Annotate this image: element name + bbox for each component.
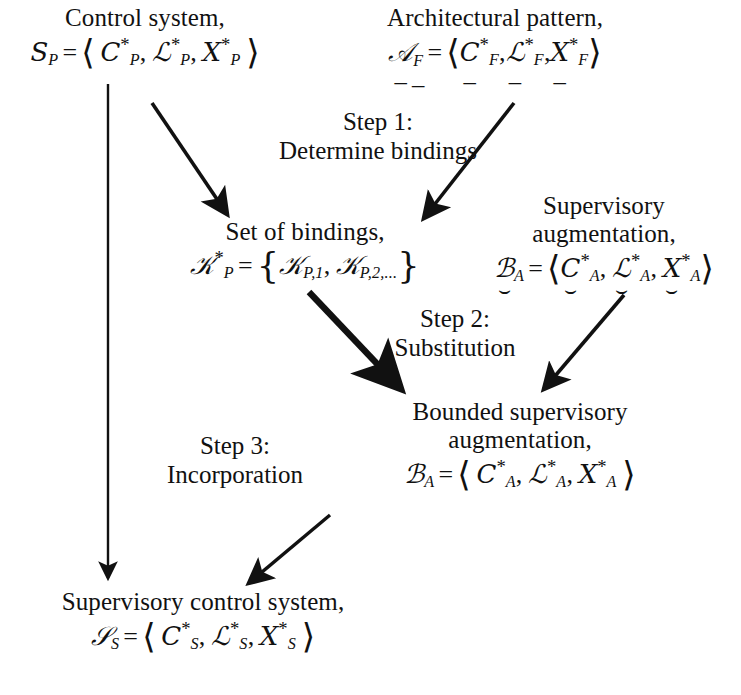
step-3-label: Step 3: Incorporation	[130, 432, 340, 489]
component-X-subscript: A	[691, 267, 701, 284]
component-L: ℒ	[528, 459, 547, 489]
step-1-label: Step 1: Determine bindings	[228, 108, 528, 165]
symbol-S: 𝒮	[91, 621, 111, 651]
comma-1: ,	[324, 251, 331, 280]
equals-sign: =	[119, 622, 142, 651]
component-L-subscript: A	[556, 473, 566, 490]
architectural-pattern-label: Architectural pattern,	[330, 4, 660, 32]
diagram-canvas: Control system, SP=⟨C*P,ℒ*P,𝑋*P⟩ Archite…	[0, 0, 741, 695]
symbol-S-subscript: P	[48, 51, 58, 68]
component-X-star: *	[221, 34, 230, 55]
component-L-star: *	[171, 34, 180, 55]
symbol-S: S	[30, 37, 48, 67]
component-X-subscript: S	[288, 635, 296, 652]
component-L: ℒ	[211, 621, 230, 651]
angle-close: ⟩	[246, 32, 259, 72]
component-C: C	[161, 621, 181, 651]
component-C-star: *	[181, 618, 190, 639]
symbol-B: ℬ	[494, 253, 514, 283]
symbol-S-subscript: S	[111, 635, 119, 652]
component-L: ℒ	[152, 37, 171, 67]
component-L-subscript: F	[534, 51, 544, 68]
angle-close: ⟩	[588, 32, 601, 72]
angle-open: ⟨	[142, 616, 155, 656]
symbol-B-subscript: A	[424, 473, 434, 490]
component-C-star: *	[120, 34, 129, 55]
component-C-subscript: S	[191, 635, 199, 652]
angle-open: ⟨	[446, 32, 459, 72]
component-C: C	[100, 37, 120, 67]
component-C: C	[560, 253, 580, 283]
control-system-label: Control system,	[10, 4, 280, 32]
brace-open: {	[257, 245, 279, 286]
component-X: 𝑋	[663, 253, 682, 283]
component-C-subscript: P	[130, 51, 140, 68]
bounded-supervisory-augmentation-label-line1: Bounded supervisory	[330, 398, 710, 426]
step-2-line2: Substitution	[340, 334, 570, 363]
angle-open: ⟨	[547, 248, 560, 288]
comma-2: ,	[650, 254, 657, 283]
angle-close: ⟩	[701, 248, 714, 288]
element-2-subscript: P,2,...	[360, 264, 397, 281]
component-C-star: *	[480, 34, 489, 55]
symbol-B-subscript: A	[514, 267, 524, 284]
element-1-base: 𝒦	[279, 250, 303, 280]
component-X: 𝑋	[579, 459, 598, 489]
step-2-line1: Step 2:	[340, 305, 570, 334]
component-C: C	[460, 37, 480, 67]
angle-open: ⟨	[457, 454, 470, 494]
supervisory-augmentation-label-line2: augmentation,	[470, 220, 738, 248]
node-architectural-pattern: Architectural pattern, 𝒜_F_=⟨C_*F,ℒ_*F,𝑋…	[330, 4, 660, 70]
component-L-star: *	[631, 250, 640, 271]
component-X-star: *	[569, 34, 578, 55]
bounded-supervisory-augmentation-label-line2: augmentation,	[330, 426, 710, 454]
node-supervisory-control-system: Supervisory control system, 𝒮S=⟨C*S,ℒ*S,…	[8, 588, 398, 654]
component-L-subscript: S	[239, 635, 247, 652]
angle-close: ⟩	[622, 454, 635, 494]
symbol-A: 𝒜	[388, 37, 413, 67]
node-set-of-bindings: Set of bindings, 𝒦*P={𝒦P,1,𝒦P,2,...}	[150, 218, 460, 285]
comma-2: ,	[248, 622, 255, 651]
symbol-K-star: *	[214, 247, 223, 268]
symbol-K-subscript: P	[224, 264, 234, 281]
bounded-supervisory-augmentation-equation: ℬA=⟨C*A,ℒ*A,𝑋*A⟩	[330, 456, 710, 492]
component-X: 𝑋	[203, 37, 222, 67]
comma-2: ,	[566, 460, 573, 489]
comma-1: ,	[199, 622, 206, 651]
node-bounded-supervisory-augmentation: Bounded supervisory augmentation, ℬA=⟨C*…	[330, 398, 710, 492]
component-L-subscript: A	[640, 267, 650, 284]
step-3-line2: Incorporation	[130, 461, 340, 490]
step-2-label: Step 2: Substitution	[340, 305, 570, 362]
component-C-star: *	[496, 456, 505, 477]
architectural-pattern-equation: 𝒜_F_=⟨C_*F,ℒ_*F,𝑋_*F⟩	[330, 34, 660, 70]
equals-sign: =	[434, 460, 457, 489]
supervisory-control-system-label: Supervisory control system,	[8, 588, 398, 616]
supervisory-augmentation-equation: ℬ⌣A=⟨C⌣*A,ℒ⌣*A,𝑋⌣*A⟩	[470, 250, 738, 286]
component-X-star: *	[681, 250, 690, 271]
component-L: ℒ	[506, 37, 525, 67]
component-X: 𝑋	[550, 37, 569, 67]
angle-open: ⟨	[81, 32, 94, 72]
equals-sign: =	[524, 254, 547, 283]
equals-sign: =	[423, 38, 446, 67]
component-C-star: *	[580, 250, 589, 271]
supervisory-control-system-equation: 𝒮S=⟨C*S,ℒ*S,𝑋*S⟩	[8, 618, 398, 654]
step-1-line1: Step 1:	[228, 108, 528, 137]
node-control-system: Control system, SP=⟨C*P,ℒ*P,𝑋*P⟩	[10, 4, 280, 70]
angle-close: ⟩	[302, 616, 315, 656]
component-L-star: *	[230, 618, 239, 639]
supervisory-augmentation-label-line1: Supervisory	[470, 192, 738, 220]
comma-1: ,	[600, 254, 607, 283]
component-X-subscript: A	[607, 473, 617, 490]
component-X-subscript: F	[578, 51, 588, 68]
step-3-line1: Step 3:	[130, 432, 340, 461]
equals-sign: =	[234, 251, 257, 280]
component-L-subscript: P	[180, 51, 190, 68]
set-of-bindings-label: Set of bindings,	[150, 218, 460, 246]
component-C-subscript: F	[489, 51, 499, 68]
step-1-line2: Determine bindings	[228, 137, 528, 166]
component-X-star: *	[597, 456, 606, 477]
equals-sign: =	[58, 38, 81, 67]
element-2-base: 𝒦	[336, 250, 360, 280]
component-L: ℒ	[612, 253, 631, 283]
